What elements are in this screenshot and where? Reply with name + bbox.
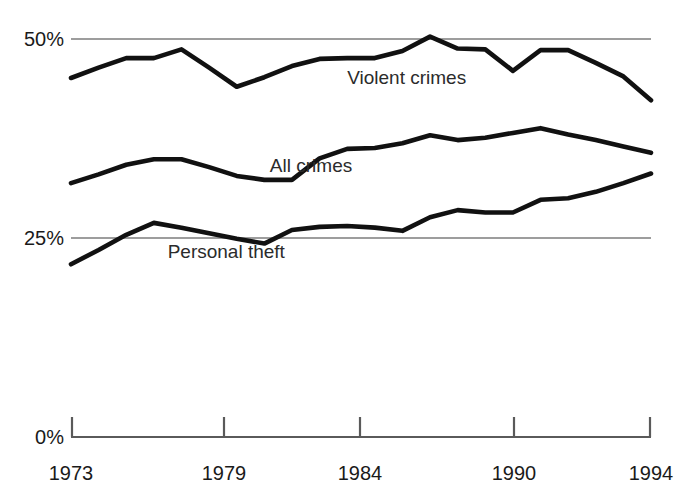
x-tick-label-1984: 1984: [338, 462, 383, 484]
series-label-violent-crimes: Violent crimes: [347, 67, 466, 88]
x-axis-labels-group: 1973 1979 1984 1990 1994: [49, 462, 674, 484]
x-tick-label-1979: 1979: [202, 462, 247, 484]
x-tick-label-1973: 1973: [49, 462, 94, 484]
chart-container: 50% 25% 0% 1973 1979 1984 1990 1994 Viol…: [0, 0, 688, 493]
series-line-personal-theft: [71, 174, 651, 265]
x-axis-group: [71, 417, 651, 437]
y-tick-label-50: 50%: [24, 28, 64, 50]
crime-reporting-line-chart: 50% 25% 0% 1973 1979 1984 1990 1994 Viol…: [0, 0, 688, 493]
x-tick-label-1990: 1990: [492, 462, 537, 484]
series-label-all-crimes: All crimes: [270, 155, 352, 176]
series-label-personal-theft: Personal theft: [168, 241, 286, 262]
series-line-all-crimes: [71, 128, 651, 183]
y-tick-label-0: 0%: [35, 426, 64, 448]
y-tick-label-25: 25%: [24, 227, 64, 249]
x-tick-label-1994: 1994: [629, 462, 674, 484]
y-axis-labels-group: 50% 25% 0%: [24, 28, 64, 448]
